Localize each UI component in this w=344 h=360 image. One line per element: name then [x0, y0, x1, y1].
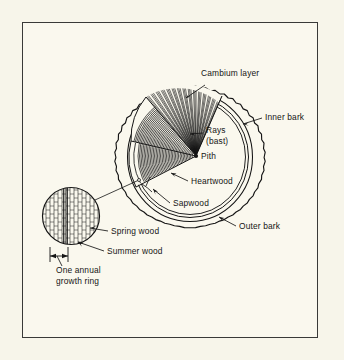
- summer-wood-band: [64, 186, 68, 246]
- pith-point: [194, 154, 198, 158]
- label-heartwood: Heartwood: [191, 176, 233, 187]
- diagram-artwork: [0, 0, 344, 360]
- figure-root: Cambium layer Inner bark Rays (bast) Pit…: [0, 0, 344, 360]
- label-growth-ring: growth ring: [56, 276, 99, 287]
- label-outer-bark: Outer bark: [239, 221, 280, 232]
- label-one-annual: One annual: [56, 265, 101, 276]
- label-pith: Pith: [201, 151, 216, 162]
- label-spring-wood: Spring wood: [111, 226, 159, 237]
- label-rays-bast: (bast): [206, 136, 228, 147]
- label-sapwood: Sapwood: [173, 198, 209, 209]
- label-rays: Rays: [206, 125, 226, 136]
- label-summer-wood: Summer wood: [107, 246, 163, 257]
- label-cambium-layer: Cambium layer: [201, 68, 259, 79]
- label-inner-bark: Inner bark: [265, 112, 304, 123]
